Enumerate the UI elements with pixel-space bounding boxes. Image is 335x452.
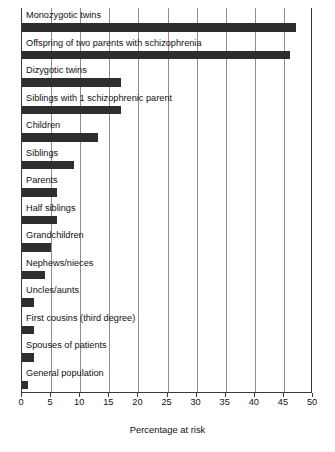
bar-category-label: Grandchildren (26, 229, 84, 242)
tick-label-45: 45 (278, 397, 288, 407)
x-axis-ticks: 05101520253035404550 (21, 393, 312, 409)
tick-label-5: 5 (48, 397, 53, 407)
bar (22, 353, 34, 362)
bar-row: Siblings with 1 schizophrenic parent (22, 91, 311, 119)
bar (22, 188, 57, 197)
bar (22, 23, 296, 32)
bar-row: Children (22, 118, 311, 146)
bar-row: Offspring of two parents with schizophre… (22, 36, 311, 64)
bar-row: Half siblings (22, 201, 311, 229)
bar (22, 216, 57, 225)
bar-category-label: Uncles/aunts (26, 284, 79, 297)
bar-category-label: Dizygotic twins (26, 64, 87, 77)
bar (22, 326, 34, 335)
x-axis-label: Percentage at risk (0, 424, 335, 435)
bar-category-label: Offspring of two parents with schizophre… (26, 37, 202, 50)
bar (22, 298, 34, 307)
tick-label-40: 40 (249, 397, 259, 407)
bar-category-label: Spouses of patients (26, 339, 107, 352)
bar (22, 133, 98, 142)
bar-row: Monozygotic twins (22, 8, 311, 36)
bar (22, 161, 74, 170)
bar-category-label: Monozygotic twins (26, 9, 101, 22)
bar (22, 243, 51, 252)
bar (22, 381, 28, 390)
bar-row: Nephews/nieces (22, 256, 311, 284)
bar-row: General population (22, 366, 311, 394)
bar-row: Grandchildren (22, 228, 311, 256)
bar-row: Spouses of patients (22, 338, 311, 366)
bar (22, 51, 290, 60)
bar-category-label: Parents (26, 174, 58, 187)
tick-label-20: 20 (132, 397, 142, 407)
bar-category-label: First cousins (third degree) (26, 312, 135, 325)
bar-category-label: General population (26, 367, 104, 380)
bar-category-label: Nephews/nieces (26, 257, 93, 270)
bar-category-label: Children (26, 119, 60, 132)
bar-row: Siblings (22, 146, 311, 174)
bar (22, 271, 45, 280)
tick-label-30: 30 (190, 397, 200, 407)
tick-label-10: 10 (74, 397, 84, 407)
bar-category-label: Siblings (26, 147, 58, 160)
bar-row: First cousins (third degree) (22, 311, 311, 339)
tick-label-15: 15 (103, 397, 113, 407)
bar-row: Dizygotic twins (22, 63, 311, 91)
bar-row: Parents (22, 173, 311, 201)
tick-label-35: 35 (220, 397, 230, 407)
bar-category-label: Siblings with 1 schizophrenic parent (26, 92, 172, 105)
bar (22, 78, 121, 87)
tick-label-0: 0 (18, 397, 23, 407)
bar (22, 106, 121, 115)
risk-of-schizophrenia-bar-chart: Monozygotic twinsOffspring of two parent… (0, 0, 335, 452)
plot-area: Monozygotic twinsOffspring of two parent… (21, 8, 312, 393)
bar-category-label: Half siblings (26, 202, 76, 215)
tick-label-50: 50 (307, 397, 317, 407)
bar-row: Uncles/aunts (22, 283, 311, 311)
tick-label-25: 25 (161, 397, 171, 407)
bar-rows: Monozygotic twinsOffspring of two parent… (22, 8, 311, 392)
